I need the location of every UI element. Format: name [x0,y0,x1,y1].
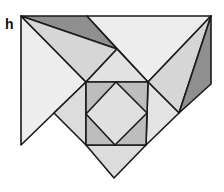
tangram-diagram [0,0,224,192]
bottom-triangle [86,145,146,178]
